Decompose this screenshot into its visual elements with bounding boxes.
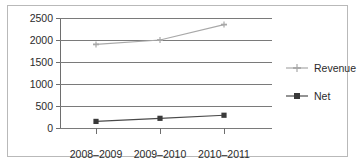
legend-label-revenue: Revenue (314, 62, 356, 74)
data-point-marker (93, 119, 98, 124)
y-axis-label: 1500 (30, 56, 53, 68)
legend-label-net: Net (314, 90, 330, 102)
x-axis-tick (160, 128, 161, 134)
y-axis-label: 0 (47, 122, 53, 134)
net-marker-icon (286, 90, 308, 102)
data-point-marker (157, 116, 162, 121)
revenue-marker-icon (286, 62, 308, 74)
plot-area: 05001000150020002500 2008–20092009–20102… (60, 18, 272, 128)
x-axis-label: 2008–2009 (70, 148, 123, 160)
y-axis-label: 2500 (30, 12, 53, 24)
chart-legend: Revenue Net (286, 61, 356, 117)
y-axis-label: 500 (35, 100, 53, 112)
data-point-marker (221, 113, 226, 118)
series-revenue (93, 22, 227, 48)
legend-item-net: Net (286, 89, 356, 103)
series-net (93, 113, 226, 124)
series-lines (60, 18, 272, 128)
data-point-marker (93, 41, 99, 47)
x-axis-tick (96, 128, 97, 134)
chart-frame: 05001000150020002500 2008–20092009–20102… (7, 5, 348, 157)
gridline (60, 128, 272, 129)
data-point-marker (157, 37, 163, 43)
legend-item-revenue: Revenue (286, 61, 356, 75)
x-axis-tick (224, 128, 225, 134)
y-axis-label: 1000 (30, 78, 53, 90)
y-axis-label: 2000 (30, 34, 53, 46)
y-axis-tick (56, 128, 60, 129)
x-axis-label: 2009–2010 (134, 148, 187, 160)
x-axis-label: 2010–2011 (198, 148, 250, 160)
data-point-marker (221, 22, 227, 28)
